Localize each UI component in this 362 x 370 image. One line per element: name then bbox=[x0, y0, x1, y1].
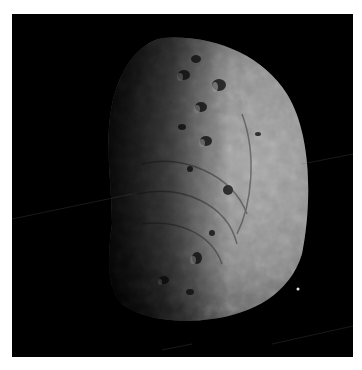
asteroid bbox=[92, 29, 322, 329]
photo-frame bbox=[12, 14, 353, 357]
asteroid-photo bbox=[12, 14, 353, 357]
